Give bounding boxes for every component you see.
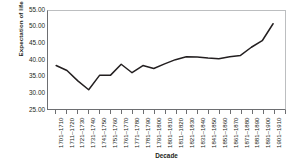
series-line-expectation-of-life (56, 24, 273, 90)
y-tick-label: 25.00 (15, 107, 45, 113)
y-tick-label: 50.00 (15, 23, 45, 29)
x-tick-mark (230, 110, 231, 114)
x-tick-label: 1791–1800 (156, 108, 162, 148)
x-axis-tick-labels: 1701–17101711–17201721–17301731–17401741… (47, 114, 286, 150)
x-tick-label: 1701–1710 (58, 108, 64, 148)
x-tick-label: 1751–1760 (112, 108, 118, 148)
x-tick-label: 1781–1790 (145, 108, 151, 148)
x-tick-mark (66, 110, 67, 114)
x-tick-mark (88, 110, 89, 114)
x-tick-mark (55, 110, 56, 114)
x-tick-label: 1841–1850 (211, 108, 217, 148)
y-tick-label: 55.00 (15, 7, 45, 13)
x-tick-label: 1831–1840 (200, 108, 206, 148)
x-tick-mark (99, 110, 100, 114)
x-tick-mark (252, 110, 253, 114)
x-tick-label: 1801–1810 (167, 108, 173, 148)
x-tick-label: 1761–1770 (123, 108, 129, 148)
x-tick-label: 1811–1820 (178, 108, 184, 148)
plot-area (47, 10, 286, 110)
x-tick-mark (285, 110, 286, 114)
y-tick-label: 45.00 (15, 40, 45, 46)
x-tick-mark (132, 110, 133, 114)
x-tick-label: 1861–1870 (233, 108, 239, 148)
x-tick-mark (263, 110, 264, 114)
y-axis-tick-labels: 55.0050.0045.0040.0035.0030.0025.00 (13, 0, 45, 167)
x-tick-mark (165, 110, 166, 114)
x-tick-mark (241, 110, 242, 114)
x-tick-mark (197, 110, 198, 114)
life-expectancy-chart: Expectation of life (years) 55.0050.0045… (0, 0, 293, 167)
x-tick-label: 1901–1910 (276, 108, 282, 148)
x-tick-label: 1851–1860 (222, 108, 228, 148)
x-tick-mark (274, 110, 275, 114)
x-tick-mark (77, 110, 78, 114)
x-tick-mark (154, 110, 155, 114)
x-tick-mark (121, 110, 122, 114)
x-tick-label: 1871–1880 (244, 108, 250, 148)
x-tick-label: 1771–1780 (134, 108, 140, 148)
x-tick-label: 1711–1720 (69, 108, 75, 148)
x-tick-mark (186, 110, 187, 114)
x-tick-label: 1821–1830 (189, 108, 195, 148)
x-tick-mark (143, 110, 144, 114)
x-tick-label: 1731–1740 (90, 108, 96, 148)
x-tick-mark (176, 110, 177, 114)
y-tick-label: 35.00 (15, 73, 45, 79)
x-tick-mark (110, 110, 111, 114)
x-tick-label: 1721–1730 (79, 108, 85, 148)
y-tick-label: 40.00 (15, 57, 45, 63)
x-axis-title: Decade (47, 152, 286, 159)
x-tick-mark (208, 110, 209, 114)
x-tick-label: 1881–1890 (254, 108, 260, 148)
x-tick-label: 1741–1750 (101, 108, 107, 148)
data-line-svg (48, 11, 285, 109)
y-tick-label: 30.00 (15, 90, 45, 96)
x-tick-label: 1891–1900 (265, 108, 271, 148)
x-tick-mark (219, 110, 220, 114)
